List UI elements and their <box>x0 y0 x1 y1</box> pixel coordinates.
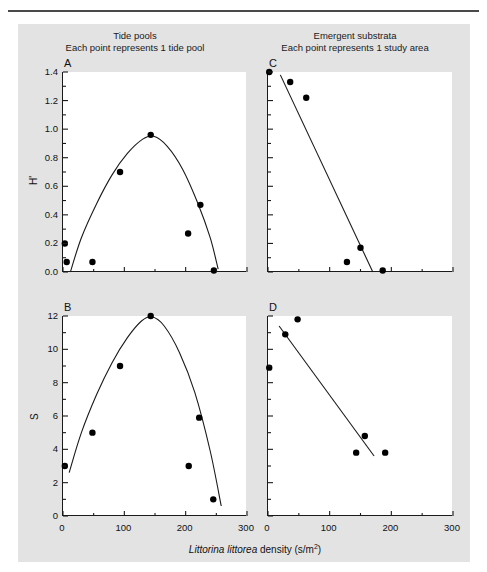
data-point <box>117 363 123 369</box>
data-point <box>362 433 368 439</box>
data-point <box>197 202 203 208</box>
column-heading-right-line2: Each point represents 1 study area <box>248 42 462 54</box>
fit-curve <box>70 136 218 272</box>
data-point <box>380 267 386 273</box>
data-point <box>148 132 154 138</box>
fit-curve <box>280 75 373 272</box>
ytick-label: 0.8 <box>20 152 58 163</box>
data-point <box>344 259 350 265</box>
data-point <box>294 316 300 322</box>
xtick-label: 300 <box>432 522 472 533</box>
xtick-label: 100 <box>103 522 143 533</box>
panel-letter-d: D <box>269 301 277 313</box>
data-point <box>282 331 288 337</box>
data-point <box>353 449 359 455</box>
data-point <box>117 169 123 175</box>
data-point <box>303 95 309 101</box>
column-heading-left-line1: Tide pools <box>30 30 240 42</box>
panel-a-plot <box>62 72 246 272</box>
ytick-label: 0 <box>20 510 58 521</box>
xaxis-genus: Littorina <box>189 544 225 555</box>
data-point <box>196 414 202 420</box>
ytick-label: 0.4 <box>20 209 58 220</box>
ytick-label: 4 <box>20 443 58 454</box>
xtick-label: 0 <box>42 522 82 533</box>
ytick-label: 10 <box>20 343 58 354</box>
axis-ticks <box>268 72 453 272</box>
panel-d-plot <box>267 316 452 516</box>
ytick-label: 0.2 <box>20 237 58 248</box>
data-point <box>266 364 272 370</box>
fit-curve <box>279 326 374 456</box>
ytick-label: 2 <box>20 477 58 488</box>
xaxis-species: littorea <box>227 544 257 555</box>
xtick-label: 0 <box>247 522 287 533</box>
ytick-label: 1.4 <box>20 66 58 77</box>
ytick-label: 6 <box>20 410 58 421</box>
data-point <box>357 245 363 251</box>
axis-ticks <box>268 316 453 516</box>
column-heading-left-line2: Each point represents 1 tide pool <box>30 42 240 54</box>
panel-letter-b: B <box>64 301 71 313</box>
data-point <box>63 259 69 265</box>
figure-container: Tide pools Each point represents 1 tide … <box>0 0 487 572</box>
panel-a-canvas <box>63 72 247 272</box>
panel-letter-c: C <box>269 57 277 69</box>
column-heading-left: Tide pools Each point represents 1 tide … <box>30 30 240 53</box>
header-rule <box>8 10 479 12</box>
data-point <box>382 449 388 455</box>
column-heading-right: Emergent substrata Each point represents… <box>248 30 462 53</box>
ytick-label: 12 <box>20 310 58 321</box>
xaxis-close: ) <box>318 544 321 555</box>
xtick-label: 200 <box>165 522 205 533</box>
axis-ticks <box>63 72 247 272</box>
ytick-label: 0.0 <box>20 266 58 277</box>
panel-c-canvas <box>268 72 453 272</box>
ytick-label: 0.6 <box>20 180 58 191</box>
xaxis-rest: density (s/m <box>257 544 314 555</box>
panel-letter-a: A <box>64 57 71 69</box>
fit-curve <box>69 317 221 506</box>
axis-ticks <box>63 316 247 516</box>
xtick-label: 200 <box>370 522 410 533</box>
panel-b-canvas <box>63 316 247 516</box>
data-point <box>186 463 192 469</box>
data-point <box>210 496 216 502</box>
data-point <box>287 79 293 85</box>
data-point <box>148 313 154 319</box>
xtick-label: 100 <box>309 522 349 533</box>
ytick-label: 8 <box>20 377 58 388</box>
data-point <box>89 429 95 435</box>
column-heading-right-line1: Emergent substrata <box>248 30 462 42</box>
panel-b-plot <box>62 316 246 516</box>
panel-c-plot <box>267 72 452 272</box>
ytick-label: 1.2 <box>20 95 58 106</box>
data-point <box>185 230 191 236</box>
ytick-label: 1.0 <box>20 123 58 134</box>
xaxis-caption: Littorina littorea density (s/m2) <box>130 543 380 555</box>
data-point <box>89 259 95 265</box>
panel-d-canvas <box>268 316 453 516</box>
